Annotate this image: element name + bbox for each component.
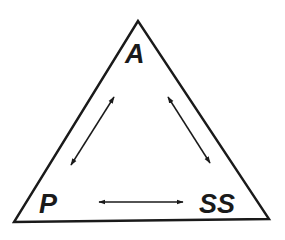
vertex-label-a: A [125,41,145,68]
arrow-a-p [71,97,114,165]
vertex-label-ss: SS [199,191,235,218]
vertex-label-p: P [39,191,57,218]
arrow-a-ss [168,97,210,163]
